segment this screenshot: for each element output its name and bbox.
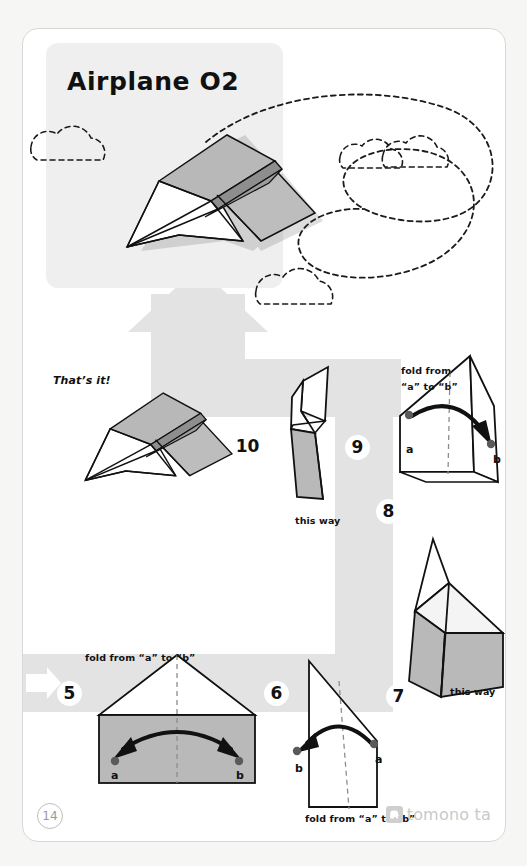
step-5-figure	[23, 29, 505, 841]
brand-name: tomono ta	[407, 805, 491, 824]
page-number: 14	[37, 803, 63, 829]
step-5-caption: fold from “a” to “b”	[85, 652, 195, 663]
brand-logo: tomono ta	[386, 805, 491, 824]
elephant-logo-icon	[386, 806, 403, 823]
step-5-marker-b: b	[236, 769, 244, 782]
step-number-5: 5	[57, 681, 82, 706]
instruction-page: Airplane O2	[22, 28, 506, 842]
step-5-marker-a: a	[111, 769, 118, 782]
